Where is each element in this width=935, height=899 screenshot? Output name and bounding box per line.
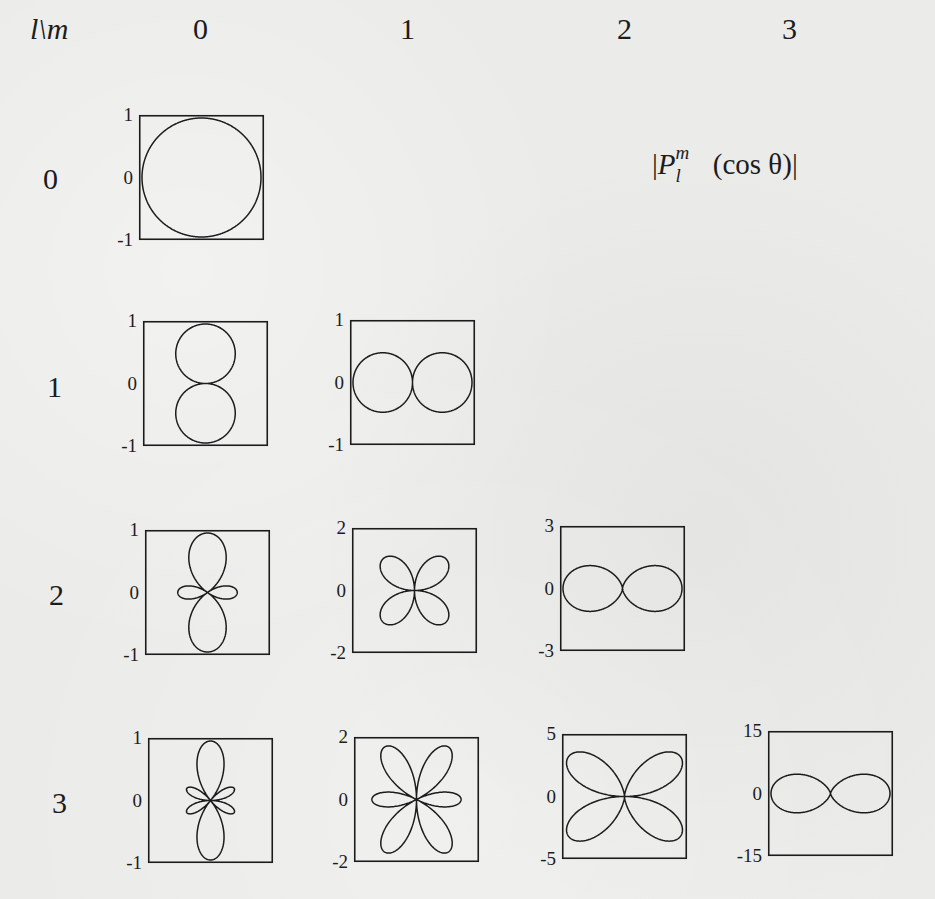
formula-P: P	[658, 148, 676, 180]
formula-sub-l: l	[676, 166, 681, 185]
y-tick-bot: -1	[99, 645, 139, 664]
y-tick-top: 2	[306, 518, 346, 537]
y-tick-mid: 0	[308, 790, 348, 809]
plot-canvas	[148, 738, 273, 863]
polar-curve	[771, 774, 890, 813]
polar-curve	[563, 566, 682, 612]
y-tick-top: 1	[97, 311, 137, 330]
polar-plot-l0-m0: 10-1	[139, 115, 264, 240]
y-tick-top: 5	[516, 724, 556, 743]
plot-canvas	[145, 530, 270, 655]
polar-curve	[142, 118, 261, 237]
column-label-m0: 0	[193, 14, 208, 44]
plot-canvas	[560, 526, 685, 651]
y-tick-bot: -2	[306, 643, 346, 662]
plot-canvas	[143, 321, 268, 446]
formula-sup-m: m	[676, 143, 690, 162]
y-tick-top: 1	[304, 310, 344, 329]
y-tick-bot: -15	[722, 846, 762, 865]
y-tick-top: 2	[308, 727, 348, 746]
plot-canvas	[139, 115, 264, 240]
polar-curve	[380, 556, 449, 625]
y-tick-bot: -1	[102, 853, 142, 872]
corner-label: l\m	[30, 14, 68, 44]
plot-frame	[140, 116, 264, 240]
y-tick-top: 15	[722, 721, 762, 740]
formula-title: |Pml (cos θ)|	[652, 150, 798, 182]
y-tick-bot: -3	[514, 641, 554, 660]
row-label-l2: 2	[49, 580, 64, 610]
y-tick-bot: -5	[516, 849, 556, 868]
y-tick-bot: -1	[304, 435, 344, 454]
y-tick-top: 1	[99, 520, 139, 539]
polar-plot-l2-m0: 10-1	[145, 530, 270, 655]
y-tick-mid: 0	[102, 791, 142, 810]
row-label-l1: 1	[47, 372, 62, 402]
y-tick-mid: 0	[99, 583, 139, 602]
plot-canvas	[354, 737, 479, 862]
plot-canvas	[562, 734, 687, 859]
column-label-m3: 3	[782, 14, 797, 44]
polar-plot-l2-m1: 20-2	[352, 528, 477, 653]
y-tick-top: 1	[102, 728, 142, 747]
formula-arg: (cos θ)	[713, 148, 792, 180]
y-tick-bot: -1	[97, 436, 137, 455]
plot-canvas	[352, 528, 477, 653]
polar-plot-l3-m0: 10-1	[148, 738, 273, 863]
y-tick-mid: 0	[93, 168, 133, 187]
polar-plot-l1-m0: 10-1	[143, 321, 268, 446]
formula-bar-close: |	[792, 148, 798, 180]
y-tick-bot: -2	[308, 852, 348, 871]
y-tick-top: 1	[93, 105, 133, 124]
row-label-l3: 3	[52, 788, 67, 818]
row-label-l0: 0	[43, 164, 58, 194]
polar-curve	[372, 746, 461, 853]
polar-curve	[178, 533, 238, 652]
polar-plot-l3-m3: 150-15	[768, 731, 893, 856]
plot-canvas	[350, 320, 475, 445]
y-tick-mid: 0	[97, 374, 137, 393]
y-tick-mid: 0	[514, 579, 554, 598]
polar-plot-l3-m2: 50-5	[562, 734, 687, 859]
polar-curve	[353, 353, 472, 413]
y-tick-bot: -1	[93, 230, 133, 249]
polar-plot-l1-m1: 10-1	[350, 320, 475, 445]
y-tick-mid: 0	[304, 373, 344, 392]
y-tick-top: 3	[514, 516, 554, 535]
polar-curve	[186, 741, 234, 860]
polar-curve	[176, 324, 236, 443]
y-tick-mid: 0	[722, 784, 762, 803]
column-label-m1: 1	[400, 14, 415, 44]
plot-canvas	[768, 731, 893, 856]
polar-curve	[567, 752, 683, 841]
column-label-m2: 2	[617, 14, 632, 44]
y-tick-mid: 0	[306, 581, 346, 600]
polar-plot-l2-m2: 30-3	[560, 526, 685, 651]
polar-plot-l3-m1: 20-2	[354, 737, 479, 862]
y-tick-mid: 0	[516, 787, 556, 806]
